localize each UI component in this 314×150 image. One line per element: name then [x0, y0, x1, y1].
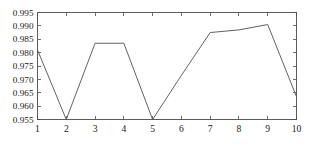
y-axis-tick-label: 0.980	[13, 48, 34, 58]
y-axis-tick-labels: 0.9550.9600.9650.9700.9750.9800.9850.990…	[13, 8, 34, 125]
y-axis-tick-label: 0.965	[13, 88, 34, 98]
x-axis-tick-label: 5	[150, 123, 155, 134]
y-axis-tick-label: 0.985	[13, 34, 34, 44]
x-axis-tick-label: 7	[208, 123, 213, 134]
x-axis-tick-label: 4	[121, 123, 126, 134]
y-axis-tick-label: 0.975	[13, 61, 34, 71]
y-axis-tick-label: 0.955	[13, 115, 34, 125]
plot-frame	[38, 13, 297, 120]
x-axis-tick-label: 1	[35, 123, 40, 134]
data-series-line	[38, 25, 297, 120]
axis-tick-marks	[38, 13, 297, 120]
x-axis-tick-label: 10	[292, 123, 302, 134]
x-axis-tick-label: 8	[237, 123, 242, 134]
chart-container: 0.9550.9600.9650.9700.9750.9800.9850.990…	[0, 0, 314, 150]
y-axis-tick-label: 0.970	[13, 75, 34, 85]
x-axis-tick-label: 3	[93, 123, 98, 134]
x-axis-tick-labels: 12345678910	[35, 123, 301, 134]
x-axis-tick-label: 6	[179, 123, 184, 134]
x-axis-tick-label: 9	[265, 123, 270, 134]
y-axis-tick-label: 0.995	[13, 8, 34, 18]
line-chart: 0.9550.9600.9650.9700.9750.9800.9850.990…	[0, 0, 314, 150]
x-axis-tick-label: 2	[64, 123, 69, 134]
y-axis-tick-label: 0.960	[13, 101, 34, 111]
y-axis-tick-label: 0.990	[13, 21, 34, 31]
